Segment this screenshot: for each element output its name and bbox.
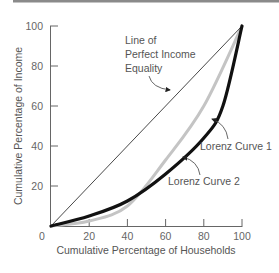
x-tick-label: 100 — [233, 230, 251, 242]
x-tick-label: 40 — [122, 230, 134, 242]
x-tick-label: 20 — [83, 230, 95, 242]
x-tick-label: 80 — [198, 230, 210, 242]
top-rule — [13, 0, 279, 3]
curve-2-arrow-icon — [183, 157, 200, 175]
curve-2-label: Lorenz Curve 2 — [168, 175, 240, 187]
equality-label-line-1: Line of — [125, 34, 157, 46]
lorenz-chart: 20406080100 20406080100 0 Cumulative Per… — [0, 0, 279, 273]
y-tick-labels: 20406080100 — [25, 20, 43, 192]
y-tick-label: 80 — [31, 60, 43, 72]
x-tick-labels: 20406080100 — [83, 230, 251, 242]
x-tick-label: 60 — [160, 230, 172, 242]
y-tick-label: 20 — [31, 180, 43, 192]
y-tick-label: 100 — [25, 20, 43, 32]
curve-1-label: Lorenz Curve 1 — [200, 140, 272, 152]
annotation-equality: Line of Perfect Income Equality — [125, 34, 196, 90]
equality-arrow-icon — [149, 76, 170, 90]
equality-label-line-2: Perfect Income — [125, 48, 196, 60]
y-tick-label: 40 — [31, 140, 43, 152]
y-tick-label: 60 — [31, 100, 43, 112]
y-axis-title: Cumulative Percentage of Income — [12, 47, 24, 205]
origin-label: 0 — [39, 230, 45, 242]
x-axis-title: Cumulative Percentage of Households — [56, 244, 235, 256]
annotation-curve-1: Lorenz Curve 1 — [200, 119, 272, 152]
equality-label-line-3: Equality — [125, 62, 163, 74]
